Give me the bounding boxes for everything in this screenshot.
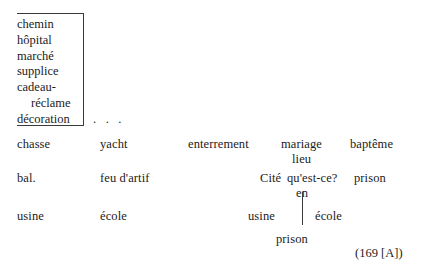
list-entry: chemin — [17, 17, 54, 32]
word: yacht — [100, 137, 128, 152]
list-entry: supplice — [17, 64, 59, 79]
word: école — [100, 209, 127, 224]
word: usine — [17, 209, 44, 224]
source-citation: (169 [A]) — [355, 246, 403, 261]
word: Cité — [260, 171, 281, 186]
list-entry: marché — [17, 49, 54, 64]
word: lieu — [292, 152, 311, 167]
word: mariage — [281, 137, 322, 152]
vertical-rule-en-prison — [302, 192, 303, 225]
list-entry: réclame — [31, 96, 71, 111]
ellipsis-marker: . . . — [93, 112, 125, 127]
word: enterrement — [188, 137, 249, 152]
word: prison — [354, 171, 386, 186]
list-entry: hôpital — [17, 33, 52, 48]
word: école — [315, 209, 342, 224]
word: qu'est-ce? — [287, 171, 337, 186]
word: chasse — [17, 137, 50, 152]
bracketed-word-list: cheminhôpitalmarchésupplicecadeau-réclam… — [17, 13, 84, 126]
word: baptême — [350, 137, 393, 152]
list-entry: cadeau- — [17, 80, 56, 95]
word: bal. — [17, 171, 36, 186]
word: prison — [276, 232, 308, 247]
word: feu d'artif — [100, 171, 150, 186]
list-entry: décoration — [17, 112, 70, 127]
document-page: cheminhôpitalmarchésupplicecadeau-réclam… — [0, 0, 423, 272]
word: usine — [248, 209, 275, 224]
